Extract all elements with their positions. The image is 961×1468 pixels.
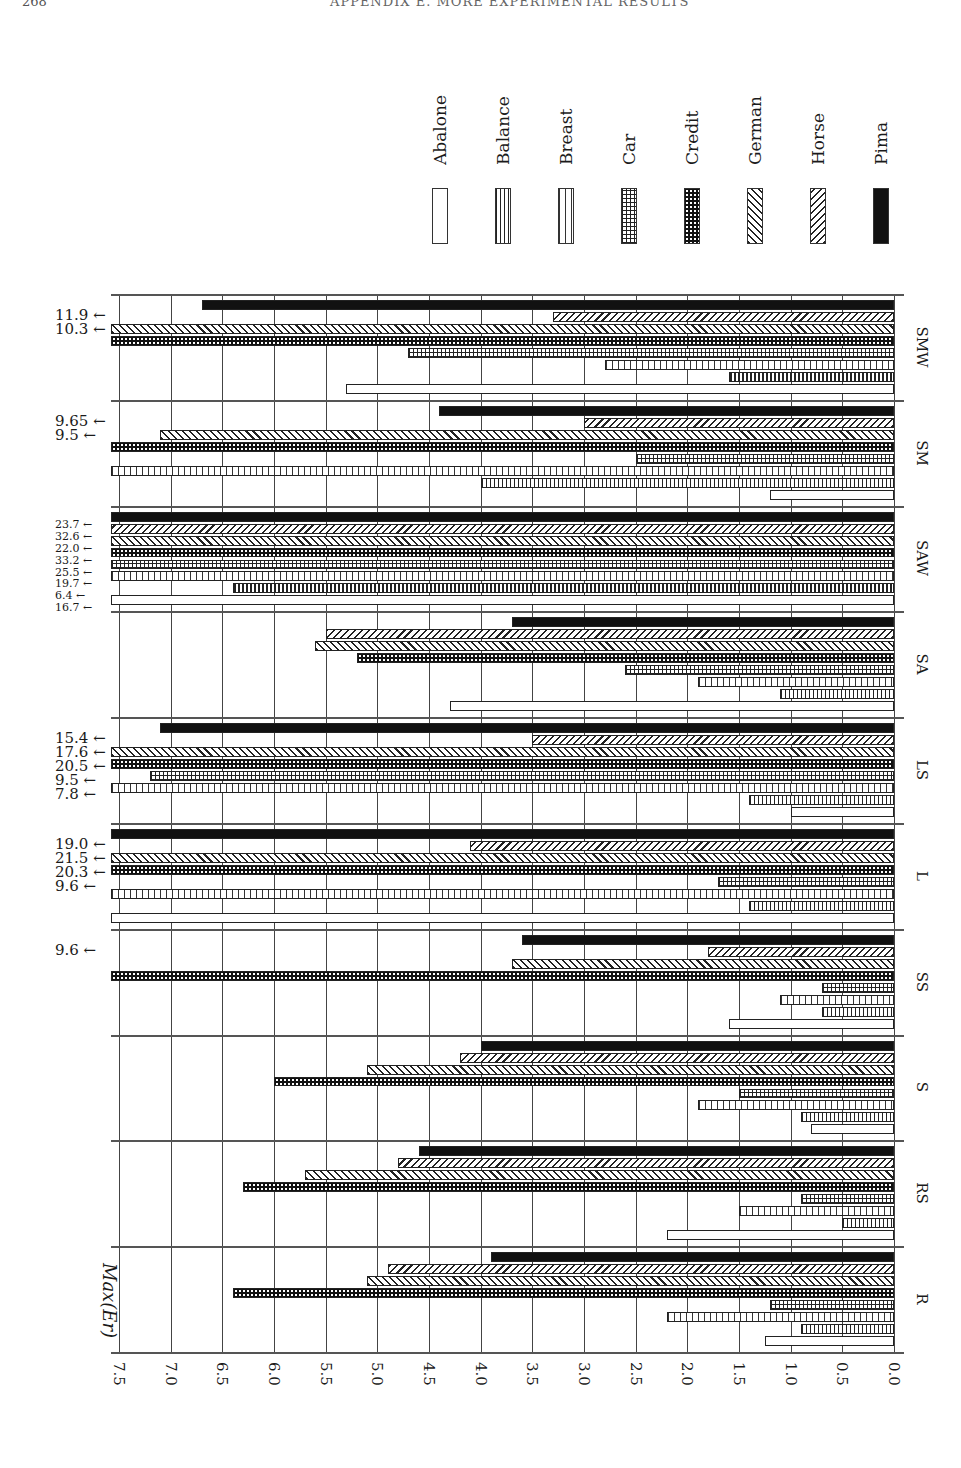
legend-item-credit: Credit (672, 55, 712, 255)
chart-legend: AbaloneBalanceBreastCarCreditGermanHorse… (420, 55, 920, 255)
bar-breast-saw (111, 571, 894, 581)
category-label: SM (907, 400, 937, 506)
category-label: SA (907, 611, 937, 717)
axis-tick-label: 7.5 (110, 1362, 128, 1386)
category-label: S (907, 1035, 937, 1141)
bar-pima-ls (160, 723, 894, 733)
bar-balance-r (801, 1324, 894, 1334)
bar-breast-smw (605, 360, 894, 370)
bar-german-rs (305, 1170, 894, 1180)
bar-credit-sa (357, 653, 894, 663)
group-separator (111, 294, 904, 296)
bar-german-ss (512, 959, 894, 969)
category-label: LS (907, 717, 937, 823)
legend-item-abalone: Abalone (420, 55, 460, 255)
bar-abalone-saw (111, 595, 894, 605)
axis-tick-label: 1.0 (782, 1362, 800, 1386)
bar-car-ls (150, 771, 894, 781)
bar-pima-r (491, 1252, 894, 1262)
bar-balance-rs (842, 1218, 894, 1228)
bar-car-rs (801, 1194, 894, 1204)
bar-car-sa (625, 665, 894, 675)
group-separator (111, 400, 904, 402)
category-label: RS (907, 1140, 937, 1246)
bar-german-sa (315, 641, 894, 651)
bar-horse-ss (708, 947, 894, 957)
category-label-text: SM (913, 440, 931, 466)
category-label-text: SS (913, 972, 931, 992)
axis-tick-label: 6.0 (265, 1362, 283, 1386)
category-label-text: LS (913, 760, 931, 780)
axis-tick-label: 5.0 (368, 1362, 386, 1386)
axis-tick: 0.5 (827, 1362, 857, 1422)
bar-horse-saw (111, 524, 894, 534)
bar-horse-r (388, 1264, 894, 1274)
legend-item-pima: Pima (861, 55, 901, 255)
group-separator (111, 929, 904, 931)
axis-tick-label: 0.5 (833, 1362, 851, 1386)
group-separator (111, 506, 904, 508)
baseline (111, 1352, 904, 1354)
legend-swatch-solid-black (873, 188, 889, 244)
bar-horse-smw (553, 312, 894, 322)
bar-horse-sa (326, 629, 894, 639)
category-label-text: R (913, 1293, 931, 1304)
bar-chart-plot-area (119, 294, 894, 1352)
legend-item-car: Car (609, 55, 649, 255)
category-label: R (907, 1246, 937, 1352)
legend-item-german: German (735, 55, 775, 255)
bar-credit-sm (111, 442, 894, 452)
legend-item-balance: Balance (483, 55, 523, 255)
legend-label: Horse (798, 55, 838, 165)
bar-horse-sm (584, 418, 894, 428)
legend-label-text: Pima (871, 122, 891, 165)
category-label: SAW (907, 506, 937, 612)
legend-swatch-forward-diagonal (810, 188, 826, 244)
bar-pima-s (481, 1041, 894, 1051)
legend-label: Car (609, 55, 649, 165)
axis-tick-label: 2.0 (678, 1362, 696, 1386)
bar-balance-smw (729, 372, 894, 382)
page-number: 268 (22, 0, 47, 9)
bar-balance-sm (481, 478, 894, 488)
legend-swatch-sparse-vertical (558, 188, 574, 244)
bar-pima-sm (439, 406, 894, 416)
bar-german-saw (111, 536, 894, 546)
axis-tick-label: 6.5 (213, 1362, 231, 1386)
category-label: L (907, 823, 937, 929)
legend-label-text: Balance (493, 96, 513, 165)
axis-tick-label: 0.0 (885, 1362, 903, 1386)
bar-breast-ss (780, 995, 894, 1005)
bar-credit-r (233, 1288, 894, 1298)
bar-breast-sm (111, 466, 894, 476)
bar-breast-sa (698, 677, 894, 687)
bar-car-l (718, 877, 894, 887)
axis-tick-label: 5.5 (317, 1362, 335, 1386)
axis-tick: 6.0 (259, 1362, 289, 1422)
bar-pima-ss (522, 935, 894, 945)
axis-tick: 7.0 (156, 1362, 186, 1422)
bar-abalone-r (765, 1336, 894, 1346)
bar-german-sm (160, 430, 894, 440)
bar-abalone-l (111, 913, 894, 923)
bar-balance-l (749, 901, 894, 911)
overflow-value-label: 16.7 ← (55, 601, 92, 614)
axis-tick: 6.5 (207, 1362, 237, 1422)
bar-car-sm (636, 454, 894, 464)
bar-balance-s (801, 1112, 894, 1122)
bar-german-ls (111, 747, 894, 757)
bar-abalone-smw (346, 384, 894, 394)
bar-breast-l (111, 889, 894, 899)
legend-label: Balance (483, 55, 523, 165)
overflow-value-label: 7.8 ← (55, 785, 96, 803)
bar-pima-l (111, 829, 894, 839)
legend-label-text: Car (619, 134, 639, 165)
bar-credit-saw (111, 548, 894, 558)
bar-credit-smw (111, 336, 894, 346)
group-separator (111, 1035, 904, 1037)
group-separator (111, 1246, 904, 1248)
legend-label-text: Breast (556, 109, 576, 165)
axis-tick-label: 4.5 (420, 1362, 438, 1386)
bar-credit-ss (111, 971, 894, 981)
bar-german-l (111, 853, 894, 863)
